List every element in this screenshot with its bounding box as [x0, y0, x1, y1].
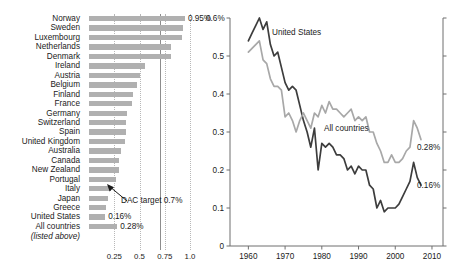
bar-xtick-0-25: 0.25: [107, 252, 122, 261]
dac-target-annotation: DAC target 0.7%: [121, 196, 182, 205]
line-ytick-0: 0: [206, 242, 224, 251]
line-series-united-states: [248, 18, 421, 212]
bar-label-new-zealand: New Zealand: [32, 165, 80, 174]
figure-root: Norway0.95%SwedenLuxembourgNetherlandsDe…: [0, 0, 466, 280]
line-xtick-1970: 1970: [276, 252, 294, 261]
line-ytick-01: 0.1: [206, 204, 224, 213]
bar-label-france: France: [55, 99, 80, 108]
bar-label-netherlands: Netherlands: [36, 42, 80, 51]
bar-rect-greece: [89, 205, 106, 210]
bar-row: New Zealand: [0, 166, 206, 174]
line-chart-svg: [206, 0, 466, 280]
bar-rect-new-zealand: [89, 167, 119, 172]
bar-label-denmark: Denmark: [47, 52, 80, 61]
bar-row: Germany: [0, 110, 206, 118]
bar-rect-australia: [89, 148, 121, 153]
bar-row: France: [0, 100, 206, 108]
bar-rect-norway: [89, 16, 185, 21]
bar-label-belgium: Belgium: [50, 80, 80, 89]
bar-row: United States0.16%: [0, 213, 206, 221]
bar-row: Belgium: [0, 81, 206, 89]
bar-row: Australia: [0, 147, 206, 155]
bar-label-united-states: United States: [31, 212, 80, 221]
bar-rect-sweden: [89, 25, 183, 30]
line-xtick-1990: 1990: [349, 252, 367, 261]
line-xtick-1980: 1980: [313, 252, 331, 261]
bar-label-finland: Finland: [53, 90, 80, 99]
bar-label-japan: Japan: [58, 194, 80, 203]
bar-rect-luxembourg: [89, 35, 182, 40]
bar-row: All countries0.28%: [0, 223, 206, 231]
bar-row: Greece: [0, 204, 206, 212]
bar-chart-sublabel: (listed above): [31, 232, 80, 241]
bar-label-italy: Italy: [65, 184, 80, 193]
line-xtick-1960: 1960: [239, 252, 257, 261]
series-label-united-states: United States: [272, 28, 321, 37]
line-xtick-2000: 2000: [386, 252, 404, 261]
line-ytick-02: 0.2: [206, 166, 224, 175]
bar-label-portugal: Portugal: [50, 175, 81, 184]
bar-rect-netherlands: [89, 44, 171, 49]
bar-rect-canada: [89, 158, 119, 163]
bar-row: Finland: [0, 91, 206, 99]
bar-label-luxembourg: Luxembourg: [34, 33, 80, 42]
bar-row: Switzerland: [0, 119, 206, 127]
line-chart-series: [248, 18, 421, 212]
bar-chart-panel: Norway0.95%SwedenLuxembourgNetherlandsDe…: [0, 0, 206, 280]
bar-label-germany: Germany: [46, 109, 80, 118]
bar-label-all-countries: All countries: [35, 222, 80, 231]
line-ytick-03: 0.3: [206, 128, 224, 137]
series-label-all-countries: All countries: [324, 124, 369, 133]
line-ytick-05: 0.5: [206, 52, 224, 61]
bar-label-austria: Austria: [55, 71, 80, 80]
bar-label-canada: Canada: [51, 156, 80, 165]
bar-rect-united-kingdom: [89, 139, 125, 144]
bar-row: Austria: [0, 72, 206, 80]
bar-label-sweden: Sweden: [50, 23, 80, 32]
line-ytick-06: 0.6%: [206, 14, 224, 23]
bar-xtick-0-75: 0.75: [157, 252, 172, 261]
line-chart-panel: 0.6%0.50.40.30.20.10 1960197019801990200…: [206, 0, 466, 280]
bar-label-spain: Spain: [59, 127, 80, 136]
bar-rect-ireland: [89, 63, 145, 68]
end-label-all-countries: 0.28%: [417, 143, 440, 152]
bar-row: Denmark: [0, 53, 206, 61]
bar-row: Netherlands: [0, 43, 206, 51]
bar-rect-belgium: [89, 82, 137, 87]
bar-rect-germany: [89, 111, 127, 116]
bar-xtick-1-0: 1.0: [185, 252, 196, 261]
bar-row: Portugal: [0, 176, 206, 184]
bar-value-united-states: 0.16%: [108, 212, 131, 221]
bar-rect-united-states: [89, 214, 105, 219]
bar-row: United Kingdom: [0, 138, 206, 146]
bar-row: Ireland: [0, 62, 206, 70]
bar-row: Italy: [0, 185, 206, 193]
bar-label-switzerland: Switzerland: [38, 118, 80, 127]
line-xtick-2010: 2010: [423, 252, 441, 261]
bar-rect-portugal: [89, 177, 116, 182]
bar-rect-austria: [89, 73, 140, 78]
line-ytick-04: 0.4: [206, 90, 224, 99]
bar-rect-denmark: [89, 54, 171, 59]
bar-row: Norway0.95%: [0, 15, 206, 23]
bar-rect-all-countries: [89, 224, 117, 229]
bar-label-australia: Australia: [48, 146, 80, 155]
bar-rect-spain: [89, 129, 126, 134]
line-series-all-countries: [248, 41, 421, 163]
line-chart-frame: [227, 18, 447, 250]
bar-rect-france: [89, 101, 132, 106]
bar-value-all-countries: 0.28%: [120, 222, 143, 231]
bar-label-greece: Greece: [53, 203, 80, 212]
bar-label-norway: Norway: [52, 14, 80, 23]
bar-row: Canada: [0, 157, 206, 165]
bar-row: Sweden: [0, 24, 206, 32]
bar-label-united-kingdom: United Kingdom: [22, 137, 80, 146]
bar-label-ireland: Ireland: [55, 61, 80, 70]
bar-xtick-0-5: 0.5: [134, 252, 145, 261]
bar-rect-finland: [89, 92, 133, 97]
bar-row: Spain: [0, 128, 206, 136]
bar-row: Luxembourg: [0, 34, 206, 42]
end-label-united-states: 0.16%: [417, 181, 440, 190]
bar-rect-switzerland: [89, 120, 126, 125]
